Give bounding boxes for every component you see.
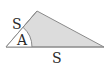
sas-triangle-diagram: S A S [0,0,108,66]
angle-label: A [16,32,28,48]
base-side-label: S [52,50,62,66]
triangle-figure: S A S [0,0,108,66]
left-side-label: S [12,16,22,32]
